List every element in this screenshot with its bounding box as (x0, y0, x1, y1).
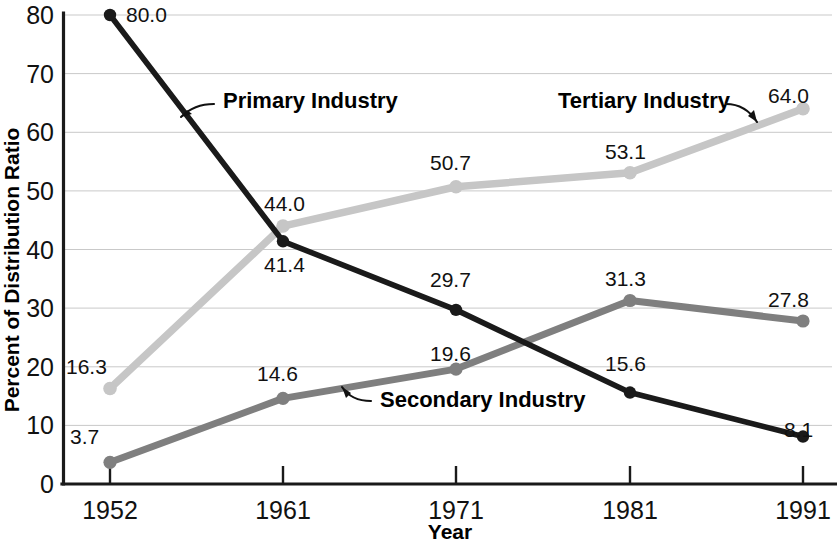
series-secondary-industry (103, 294, 809, 469)
y-tick-40: 40 (26, 236, 54, 264)
point-label-tertiary-1961: 44.0 (264, 192, 305, 215)
y-tick-0: 0 (40, 470, 54, 498)
data-point-primary-1952 (104, 9, 116, 21)
data-point-primary-1981 (624, 386, 636, 398)
point-label-primary-1971: 29.7 (430, 268, 471, 291)
data-point-primary-1961 (277, 235, 289, 247)
data-point-secondary-1952 (103, 456, 116, 469)
y-tick-60: 60 (26, 118, 54, 146)
y-tick-30: 30 (26, 294, 54, 322)
line-chart: 80 70 60 50 40 30 20 10 0 1952 1961 1971… (0, 0, 837, 542)
data-point-tertiary-1981 (623, 166, 637, 180)
point-label-secondary-1991: 27.8 (768, 288, 809, 311)
x-tick-1952: 1952 (82, 496, 138, 524)
annotation-secondary-industry: Secondary Industry (342, 387, 586, 412)
y-tick-50: 50 (26, 177, 54, 205)
x-tick-1991: 1991 (775, 496, 831, 524)
annotation-label-tertiary: Tertiary Industry (558, 88, 731, 113)
data-point-tertiary-1971 (449, 180, 463, 194)
data-point-secondary-1981 (623, 294, 636, 307)
y-tick-10: 10 (26, 411, 54, 439)
annotation-label-secondary: Secondary Industry (380, 387, 586, 412)
data-point-primary-1971 (450, 304, 462, 316)
y-axis-title: Percent of Distribution Ratio (0, 128, 23, 413)
point-label-secondary-1952: 3.7 (70, 425, 99, 448)
x-tick-1961: 1961 (255, 496, 311, 524)
data-point-secondary-1961 (276, 392, 289, 405)
point-label-secondary-1971: 19.6 (430, 342, 471, 365)
data-point-secondary-1991 (796, 314, 809, 327)
y-axis-tick-labels: 80 70 60 50 40 30 20 10 0 (26, 1, 54, 498)
point-label-primary-1961: 41.4 (264, 253, 305, 276)
y-tick-20: 20 (26, 353, 54, 381)
data-point-labels: 80.0 41.4 29.7 15.6 8.1 3.7 14.6 19.6 31… (66, 3, 813, 448)
point-label-tertiary-1952: 16.3 (66, 355, 107, 378)
point-label-secondary-1961: 14.6 (257, 362, 298, 385)
point-label-tertiary-1991: 64.0 (768, 84, 809, 107)
annotation-tertiary-industry: Tertiary Industry (558, 88, 757, 122)
point-label-primary-1991: 8.1 (784, 418, 813, 441)
y-tick-70: 70 (26, 60, 54, 88)
point-label-primary-1952: 80.0 (126, 3, 167, 26)
annotation-label-primary: Primary Industry (223, 88, 399, 113)
point-label-primary-1981: 15.6 (605, 352, 646, 375)
x-axis-title: Year (428, 520, 472, 542)
data-point-tertiary-1952 (103, 382, 117, 396)
x-tick-1981: 1981 (602, 496, 658, 524)
point-label-tertiary-1981: 53.1 (605, 140, 646, 163)
point-label-tertiary-1971: 50.7 (430, 151, 471, 174)
annotation-primary-industry: Primary Industry (181, 88, 399, 117)
y-tick-80: 80 (26, 1, 54, 29)
point-label-secondary-1981: 31.3 (605, 267, 646, 290)
